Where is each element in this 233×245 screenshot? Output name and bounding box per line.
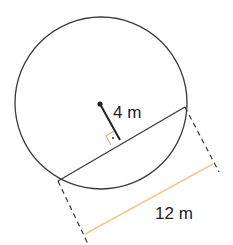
extension-line-right	[185, 107, 219, 172]
right-angle-marker	[106, 131, 114, 145]
chord-length-label: 12 m	[155, 204, 193, 223]
extension-line-left	[58, 181, 88, 244]
diagram-canvas: 4 m 12 m	[0, 0, 233, 245]
distance-label: 4 m	[113, 103, 141, 122]
center-point	[97, 101, 102, 106]
